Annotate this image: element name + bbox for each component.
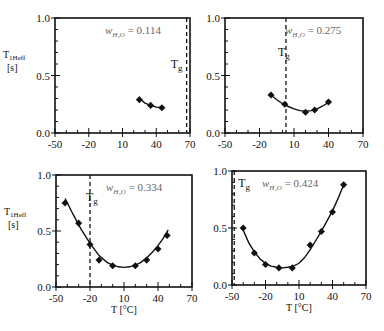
data-point	[311, 106, 318, 113]
data-point	[158, 104, 165, 111]
tg-label: Tg	[278, 45, 290, 61]
data-point	[62, 199, 69, 206]
y-axis-label: T1Heff[s]	[4, 206, 27, 230]
x-tick-label: 70	[361, 290, 373, 302]
tg-label: Tg	[171, 57, 183, 73]
x-tick-label: -20	[83, 292, 98, 304]
chart-panel-top-right: -50-201040700.00.51.0TgwH₂O = 0.275	[206, 12, 369, 150]
x-axis-label: T [°C]	[286, 302, 312, 313]
x-tick-label: 40	[153, 292, 165, 304]
data-point	[164, 232, 171, 239]
y-axis-label: T1Heff[s]	[3, 49, 26, 73]
y-tick-label: 1.0	[36, 12, 50, 24]
fit-curve	[271, 95, 331, 111]
x-tick-label: -20	[252, 138, 267, 150]
y-tick-label: 0.5	[36, 70, 50, 82]
x-tick-label: -50	[49, 292, 64, 304]
y-tick-label: 1.0	[37, 169, 51, 181]
data-point	[340, 181, 347, 188]
x-tick-label: 40	[327, 290, 339, 302]
y-tick-label: 1.0	[213, 165, 227, 177]
x-tick-label: 70	[185, 138, 197, 150]
data-point	[154, 245, 161, 252]
x-tick-label: 40	[323, 138, 335, 150]
water-fraction-annotation: wH₂O = 0.275	[285, 24, 342, 39]
x-axis-label: T [°C]	[111, 304, 137, 315]
chart-panel-top-left: -50-201040700.00.51.0T1Heff[s]TgwH₂O = 0…	[3, 12, 196, 150]
x-tick-label: 10	[294, 290, 306, 302]
tg-label: Tg	[86, 190, 98, 206]
fit-curve	[243, 185, 344, 268]
x-tick-label: 70	[187, 292, 199, 304]
x-tick-label: -50	[225, 290, 240, 302]
chart-panel-bottom-right: -50-201040700.00.51.0T [°C]TgwH₂O = 0.42…	[213, 165, 372, 313]
data-point	[307, 242, 314, 249]
data-point	[302, 109, 309, 116]
y-tick-label: 0.0	[213, 279, 227, 291]
data-point	[240, 224, 247, 231]
water-fraction-annotation: wH₂O = 0.424	[262, 177, 319, 192]
x-tick-label: 70	[358, 138, 370, 150]
x-tick-label: 40	[151, 138, 163, 150]
x-tick-label: -50	[48, 138, 63, 150]
data-point	[143, 257, 150, 264]
y-tick-label: 0.0	[36, 127, 50, 139]
chart-figure: -50-201040700.00.51.0T1Heff[s]TgwH₂O = 0…	[0, 0, 384, 331]
data-point	[275, 264, 282, 271]
x-tick-label: 10	[119, 292, 131, 304]
x-tick-label: -20	[258, 290, 273, 302]
x-tick-label: 10	[289, 138, 301, 150]
y-tick-label: 0.0	[206, 127, 220, 139]
tg-label: Tg	[238, 176, 250, 192]
data-point	[318, 228, 325, 235]
y-tick-label: 0.5	[37, 225, 51, 237]
y-tick-label: 0.5	[206, 70, 220, 82]
water-fraction-annotation: wH₂O = 0.114	[105, 24, 161, 39]
data-point	[136, 96, 143, 103]
y-tick-label: 0.0	[37, 281, 51, 293]
chart-panel-bottom-left: -50-201040700.00.51.0T1Heff[s]T [°C]TgwH…	[4, 169, 198, 315]
x-tick-label: -20	[81, 138, 96, 150]
water-fraction-annotation: wH₂O = 0.334	[106, 181, 163, 196]
data-point	[147, 102, 154, 109]
fit-curve	[65, 199, 168, 268]
x-tick-label: 10	[117, 138, 129, 150]
x-tick-label: -50	[218, 138, 233, 150]
y-tick-label: 1.0	[206, 12, 220, 24]
y-tick-label: 0.5	[213, 222, 227, 234]
